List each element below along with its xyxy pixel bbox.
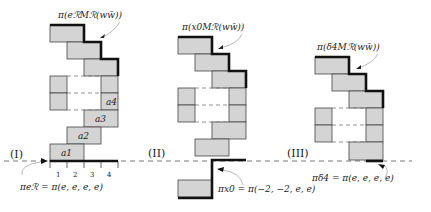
- cell: [101, 76, 118, 93]
- tick-label-2: 2: [73, 171, 77, 179]
- tick-label-3: 3: [90, 171, 94, 179]
- cell: [315, 125, 332, 142]
- cell: [349, 91, 383, 108]
- cell: [178, 88, 195, 105]
- top-caption-ii: π(x0Mℛ(ww̄)): [181, 22, 245, 32]
- cell: [315, 57, 349, 74]
- cell-label-a1: a1: [61, 148, 72, 158]
- panel-ii: π(x0Mℛ(ww̄)) (II) πx0 = π(−2, −2, e, e): [148, 22, 316, 198]
- tick-label-1: 1: [56, 171, 60, 179]
- panel-iii: π(δ4Mℛ(ww̄)) (III) πδ4 = π(e, e, e, e): [287, 42, 394, 183]
- arrowhead-icon: [378, 164, 385, 169]
- top-caption-i: π(eℛMℛ(ww̄)): [57, 10, 122, 20]
- arrowhead-icon: [41, 158, 48, 164]
- cell: [212, 122, 246, 139]
- cell: [178, 105, 195, 122]
- cell: [349, 142, 383, 160]
- cell-label-a3: a3: [95, 114, 106, 124]
- caption-arrow: [220, 34, 242, 48]
- cell: [229, 88, 246, 105]
- cell-label-a4: a4: [106, 97, 117, 107]
- cell: [366, 125, 383, 142]
- caption-arrow: [100, 22, 120, 38]
- cell: [212, 71, 246, 88]
- cell-label-a2: a2: [78, 131, 89, 141]
- cell: [366, 108, 383, 125]
- cell: [195, 139, 229, 156]
- tick-label-4: 4: [107, 171, 112, 179]
- arrowhead-icon: [217, 167, 224, 172]
- bottom-caption-ii: πx0 = π(−2, −2, e, e): [217, 184, 316, 194]
- cell: [315, 108, 332, 125]
- cell: [178, 37, 212, 54]
- arrowhead-icon: [218, 45, 223, 49]
- cell-below-baseline: [178, 180, 212, 197]
- cell: [229, 105, 246, 122]
- panel-label-ii: (II): [148, 147, 165, 160]
- panel-label-i: (I): [10, 148, 23, 161]
- cell: [84, 59, 118, 76]
- cell: [332, 74, 366, 91]
- arrowhead-icon: [356, 65, 361, 69]
- cell: [195, 54, 229, 71]
- bottom-caption-i: πeℛ = π(e, e, e, e): [19, 182, 103, 192]
- cell: [50, 93, 67, 110]
- cell: [50, 76, 67, 93]
- arrowhead-icon: [100, 34, 105, 38]
- cell: [67, 42, 101, 59]
- top-caption-iii: π(δ4Mℛ(ww̄)): [316, 42, 380, 52]
- panel-label-iii: (III): [287, 147, 309, 160]
- bottom-caption-iii: πδ4 = π(e, e, e, e): [311, 173, 394, 183]
- axis-ticks: 1 2 3 4: [50, 161, 118, 179]
- diagram-canvas: a4 a3 a2 a1 1 2 3 4 π(eℛMℛ(ww̄)) (I) πeℛ…: [0, 0, 431, 212]
- caption-arrow: [22, 162, 40, 175]
- panel-i: a4 a3 a2 a1 1 2 3 4 π(eℛMℛ(ww̄)) (I) πeℛ…: [10, 10, 122, 192]
- cell: [50, 25, 84, 42]
- caption-arrow: [222, 170, 243, 185]
